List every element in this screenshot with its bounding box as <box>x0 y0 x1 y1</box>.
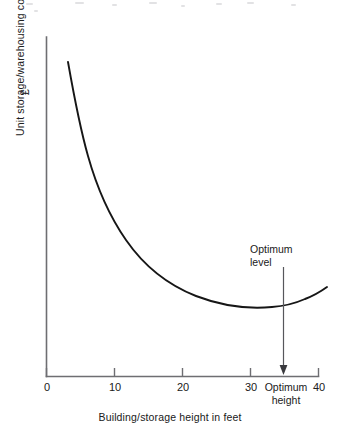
x-tick-label-0: 0 <box>37 381 57 393</box>
x-axis-ticks <box>47 368 319 377</box>
chart-figure: £ Unit storage/warehousing costs 0 10 20… <box>0 0 340 439</box>
annotation-optimum-level-line2: level <box>250 256 293 269</box>
annotation-optimum-height-line1: Optimum <box>259 381 313 394</box>
optimum-arrow <box>280 275 288 375</box>
annotation-optimum-height-line2: height <box>259 394 313 407</box>
x-tick-label-20: 20 <box>173 381 193 393</box>
x-axis-title: Building/storage height in feet <box>0 411 340 423</box>
chart-canvas <box>0 0 340 439</box>
annotation-optimum-level: Optimum level <box>250 243 293 268</box>
cost-curve <box>68 62 327 308</box>
x-tick-label-30: 30 <box>241 381 261 393</box>
annotation-optimum-level-line1: Optimum <box>250 243 293 256</box>
x-tick-label-10: 10 <box>105 381 125 393</box>
annotation-optimum-height: Optimum height <box>259 381 313 406</box>
y-axis-title: Unit storage/warehousing costs <box>14 118 26 136</box>
